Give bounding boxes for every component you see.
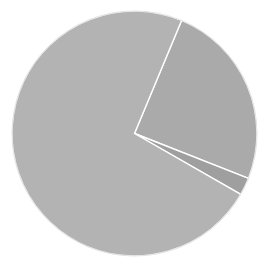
pie-chart <box>0 0 267 270</box>
pie-chart-svg <box>0 0 267 270</box>
